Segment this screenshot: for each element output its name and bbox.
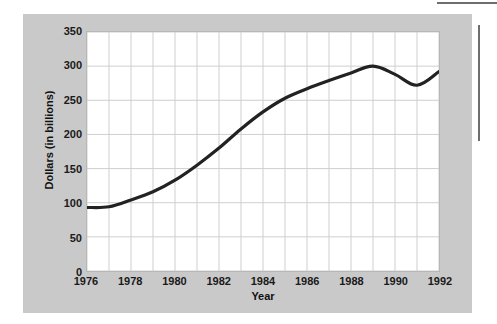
plot-area [86, 31, 440, 272]
x-tick-label: 1990 [372, 275, 420, 288]
decorative-right-rule [478, 25, 480, 141]
x-tick-label: 1980 [151, 275, 199, 288]
chart-page: 050100150200250300350 197619781980198219… [0, 0, 497, 324]
x-tick-label: 1982 [195, 275, 243, 288]
decorative-top-rule [437, 2, 497, 4]
figure-panel: 050100150200250300350 197619781980198219… [23, 14, 472, 313]
x-tick-label: 1986 [283, 275, 331, 288]
x-tick-label: 1992 [416, 275, 464, 288]
x-axis-tick-labels: 197619781980198219841986198819901992 [86, 275, 440, 291]
x-tick-label: 1984 [239, 275, 287, 288]
y-tick-label: 350 [48, 26, 82, 37]
x-tick-label: 1978 [106, 275, 154, 288]
y-axis-title: Dollars (in billions) [43, 60, 55, 220]
x-tick-label: 1976 [62, 275, 110, 288]
y-tick-label: 50 [48, 233, 82, 244]
data-series-line [87, 32, 439, 271]
x-axis-title: Year [86, 290, 440, 302]
x-tick-label: 1988 [328, 275, 376, 288]
